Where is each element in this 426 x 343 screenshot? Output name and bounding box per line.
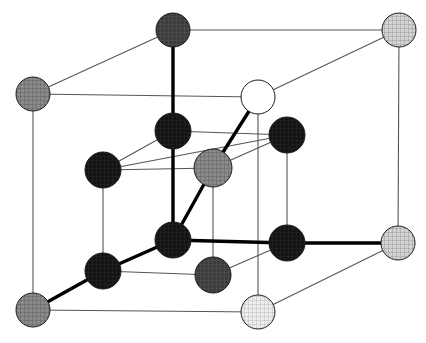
atom-corner-front-bottom-right xyxy=(241,295,275,329)
edge-back-left-diag xyxy=(33,30,173,94)
atom-corner-back-top-right xyxy=(382,13,416,47)
atom-interior-lower-mid xyxy=(155,222,191,258)
atom-interior-upper-mid xyxy=(155,113,191,149)
lattice-figure xyxy=(0,0,426,343)
atom-corner-back-bottom-right xyxy=(381,226,415,260)
atom-corner-front-top-left xyxy=(16,77,50,111)
atom-corner-back-top-left xyxy=(156,13,190,47)
atom-layer xyxy=(16,13,416,329)
atom-corner-front-bottom-left xyxy=(16,293,50,327)
atom-interior-bottom-mid xyxy=(195,257,231,293)
edge-right-vertical xyxy=(398,30,399,243)
lattice-canvas xyxy=(0,0,426,343)
atom-interior-center xyxy=(194,149,232,187)
edge-top-right-diag xyxy=(258,30,399,97)
atom-corner-front-top-right xyxy=(241,80,275,114)
atom-interior-upper-left xyxy=(85,152,121,188)
edge-front-bottom xyxy=(33,310,258,312)
atom-interior-lower-right xyxy=(269,225,305,261)
atom-interior-upper-right xyxy=(269,117,305,153)
edge-front-top xyxy=(33,94,258,97)
atom-interior-lower-left xyxy=(85,253,121,289)
